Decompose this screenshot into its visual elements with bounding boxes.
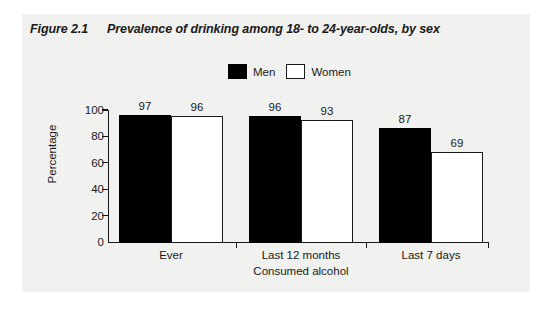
bar-value-label: 96 <box>249 101 301 113</box>
bar-series-group <box>0 0 552 243</box>
x-axis-category-label: Ever <box>111 249 231 261</box>
bar-men-0 <box>119 115 171 243</box>
x-axis-end-tick <box>488 242 489 248</box>
bar-value-label: 69 <box>431 137 483 149</box>
bar-women-0 <box>171 116 223 243</box>
bar-chart-plot: Percentage 020406080100 Consumed alcohol… <box>0 0 552 312</box>
x-axis-separator-tick <box>236 242 237 248</box>
x-axis-category-label: Last 12 months <box>241 249 361 261</box>
x-axis-category-label: Last 7 days <box>371 249 491 261</box>
bar-women-1 <box>301 120 353 243</box>
bar-men-1 <box>249 116 301 243</box>
bar-value-label: 96 <box>171 101 223 113</box>
bar-value-label: 97 <box>119 100 171 112</box>
bar-men-2 <box>379 128 431 243</box>
x-axis-separator-tick <box>366 242 367 248</box>
bar-value-label: 87 <box>379 113 431 125</box>
x-axis-title: Consumed alcohol <box>231 265 371 277</box>
bar-value-label: 93 <box>301 105 353 117</box>
bar-women-2 <box>431 152 483 243</box>
